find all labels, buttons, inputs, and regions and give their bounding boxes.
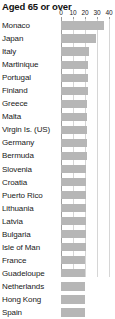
- category-label: Slovenia: [2, 163, 32, 176]
- category-label: Martinique: [2, 58, 38, 71]
- bar-row: Virgin Is. (US): [0, 123, 115, 136]
- bar: [61, 269, 85, 277]
- bar: [61, 152, 87, 160]
- bar-row: Hong Kong: [0, 293, 115, 306]
- bar-row: Italy: [0, 45, 115, 58]
- x-axis: 010203040: [61, 9, 109, 18]
- category-label: Lithuania: [2, 202, 34, 215]
- bar-row: Isle of Man: [0, 241, 115, 254]
- bar: [61, 74, 88, 82]
- bar-row: Malta: [0, 110, 115, 123]
- bar-row: Lithuania: [0, 202, 115, 215]
- category-label: Portugal: [2, 71, 31, 84]
- category-label: Greece: [2, 97, 28, 110]
- bar-row: Japan: [0, 32, 115, 45]
- bar-row: Guadeloupe: [0, 267, 115, 280]
- category-label: Hong Kong: [2, 293, 41, 306]
- category-label: Bulgaria: [2, 228, 31, 241]
- x-axis-tick-label: 10: [69, 9, 76, 16]
- category-label: Bermuda: [2, 149, 34, 162]
- bar: [61, 230, 86, 238]
- category-label: Italy: [2, 45, 16, 58]
- bar-row: Germany: [0, 136, 115, 149]
- bar-row: Puerto Rico: [0, 189, 115, 202]
- bar-row: Finland: [0, 84, 115, 97]
- bar: [61, 191, 86, 199]
- category-label: Spain: [2, 306, 22, 319]
- bar-row: Portugal: [0, 71, 115, 84]
- category-label: Croatia: [2, 176, 27, 189]
- bar-row: Greece: [0, 97, 115, 110]
- category-label: Malta: [2, 110, 21, 123]
- x-axis-tick-label: 0: [59, 9, 63, 16]
- category-label: Latvia: [2, 215, 23, 228]
- bar: [61, 256, 85, 264]
- category-label: Puerto Rico: [2, 189, 43, 202]
- bar: [61, 295, 85, 303]
- bar: [61, 126, 87, 134]
- bar-row: Slovenia: [0, 163, 115, 176]
- bar-row: Monaco: [0, 19, 115, 32]
- category-label: Monaco: [2, 19, 30, 32]
- x-axis-tick-label: 40: [105, 9, 112, 16]
- category-label: Netherlands: [2, 280, 44, 293]
- x-axis-tick-label: 30: [93, 9, 100, 16]
- bar: [61, 100, 87, 108]
- bar: [61, 139, 87, 147]
- bar: [61, 282, 85, 290]
- category-label: Guadeloupe: [2, 267, 45, 280]
- bar-row: Bermuda: [0, 149, 115, 162]
- bar-rows: MonacoJapanItalyMartiniquePortugalFinlan…: [0, 19, 115, 277]
- bar-row: Bulgaria: [0, 228, 115, 241]
- bar: [61, 61, 88, 69]
- bar-row: Croatia: [0, 176, 115, 189]
- bar: [61, 87, 88, 95]
- category-label: Finland: [2, 84, 28, 97]
- bar-row: Netherlands: [0, 280, 115, 293]
- bar: [61, 204, 86, 212]
- bar: [61, 217, 86, 225]
- category-label: Japan: [2, 32, 23, 45]
- bar: [61, 34, 96, 42]
- bar-row: Spain: [0, 306, 115, 319]
- bar: [61, 243, 86, 251]
- bar: [61, 21, 104, 29]
- bar: [61, 47, 89, 55]
- bar-row: France: [0, 254, 115, 267]
- category-label: Isle of Man: [2, 241, 40, 254]
- category-label: Germany: [2, 136, 34, 149]
- bar: [61, 165, 86, 173]
- bar: [61, 308, 85, 316]
- bar: [61, 178, 86, 186]
- bar-row: Martinique: [0, 58, 115, 71]
- category-label: France: [2, 254, 26, 267]
- x-axis-tick-label: 20: [81, 9, 88, 16]
- category-label: Virgin Is. (US): [2, 123, 50, 136]
- bar: [61, 113, 87, 121]
- bar-row: Latvia: [0, 215, 115, 228]
